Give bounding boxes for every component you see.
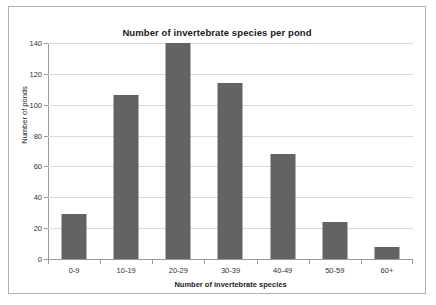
bar[interactable]: [270, 154, 295, 259]
bars-layer: [48, 43, 413, 259]
x-axis-tick: [309, 260, 310, 264]
bar-slot: [361, 43, 413, 259]
bar-slot: [257, 43, 309, 259]
bar[interactable]: [374, 247, 399, 259]
x-axis-tick-label: 0-9: [69, 266, 80, 275]
plot-area: [48, 43, 413, 259]
x-axis-tick-label: 60+: [381, 266, 394, 275]
x-axis-tick-label: 20-29: [169, 266, 188, 275]
y-axis-tick-labels: 020406080100120140: [9, 43, 42, 259]
x-axis-tick: [361, 260, 362, 264]
bar-slot: [152, 43, 204, 259]
y-axis-tick-label: 100: [29, 100, 42, 109]
x-axis-tick: [100, 260, 101, 264]
x-axis-tick: [204, 260, 205, 264]
bar-slot: [100, 43, 152, 259]
bar-slot: [309, 43, 361, 259]
bar[interactable]: [218, 83, 243, 259]
x-axis-tick-label: 40-49: [273, 266, 292, 275]
x-axis-tick-labels: 0-910-1920-2930-3940-4950-5960+: [48, 266, 413, 278]
bar-slot: [48, 43, 100, 259]
bar[interactable]: [322, 222, 347, 259]
x-axis-tick: [412, 260, 413, 264]
chart-figure: Number of invertebrate species per pond …: [8, 6, 426, 294]
y-axis-tick-label: 120: [29, 69, 42, 78]
chart-title: Number of invertebrate species per pond: [9, 27, 425, 38]
y-axis-tick-label: 80: [34, 131, 42, 140]
y-axis-tick-label: 60: [34, 162, 42, 171]
x-axis-tick: [257, 260, 258, 264]
x-axis-tick-label: 50-59: [325, 266, 344, 275]
bar[interactable]: [62, 214, 87, 259]
x-axis-title: Number of invertebrate species: [48, 280, 413, 289]
bar[interactable]: [166, 43, 191, 259]
x-axis-tick-label: 30-39: [221, 266, 240, 275]
x-axis-tick-marks: [48, 260, 413, 264]
y-axis-tick-label: 140: [29, 39, 42, 48]
y-axis-tick-label: 20: [34, 224, 42, 233]
y-axis-tick-label: 40: [34, 193, 42, 202]
x-axis-tick-label: 10-19: [117, 266, 136, 275]
x-axis-tick: [48, 260, 49, 264]
x-axis-tick: [152, 260, 153, 264]
bar-slot: [204, 43, 256, 259]
bar[interactable]: [114, 95, 139, 259]
y-axis-tick-label: 0: [38, 255, 42, 264]
